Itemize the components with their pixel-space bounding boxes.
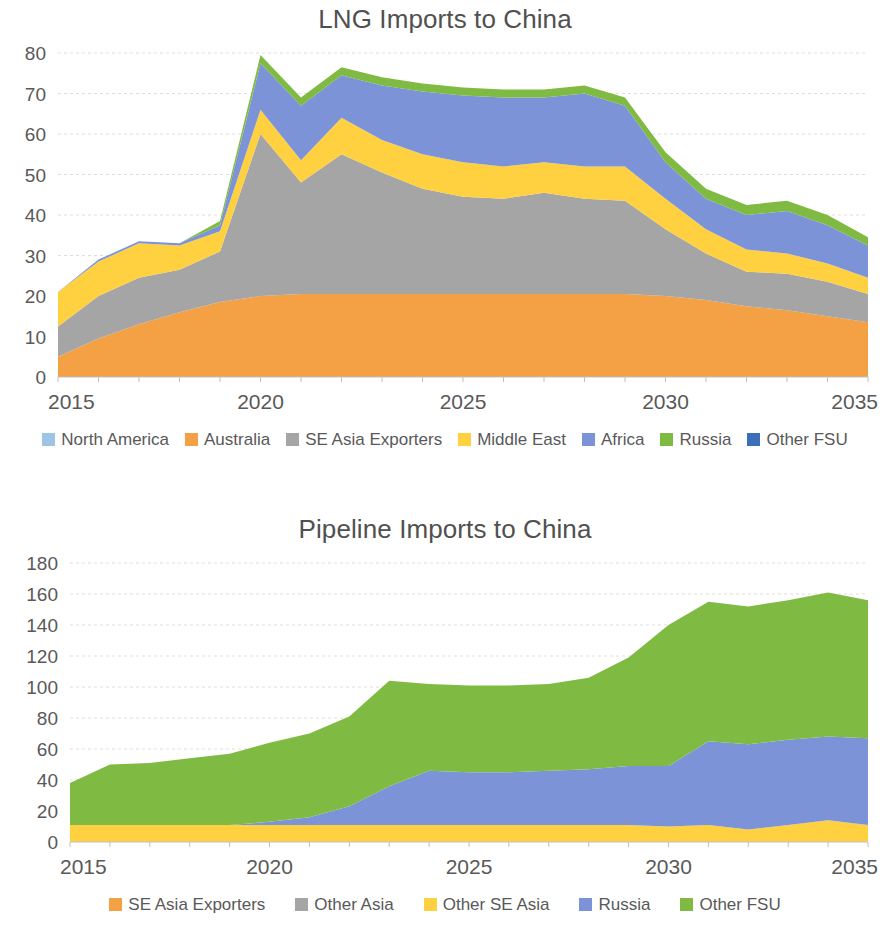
legend-swatch-icon xyxy=(458,433,471,446)
y-axis-tick-label: 180 xyxy=(26,553,58,574)
lng-plot-area: 0102030405060708020152020202520302035 xyxy=(0,35,890,425)
lng-imports-chart: LNG Imports to China 0102030405060708020… xyxy=(0,0,890,500)
legend-label: Australia xyxy=(204,431,270,448)
x-axis-tick-label: 2020 xyxy=(246,855,293,878)
legend-swatch-icon xyxy=(185,433,198,446)
y-axis-tick-label: 70 xyxy=(25,84,46,105)
legend-item[interactable]: SE Asia Exporters xyxy=(286,431,442,448)
legend-swatch-icon xyxy=(660,433,673,446)
y-axis-tick-label: 120 xyxy=(26,646,58,667)
y-axis-tick-label: 20 xyxy=(37,801,58,822)
legend-swatch-icon xyxy=(295,898,308,911)
legend-item[interactable]: North America xyxy=(42,431,169,448)
legend-item[interactable]: Other SE Asia xyxy=(424,896,550,913)
pipeline-plot-svg: 0204060801001201401601802015202020252030… xyxy=(0,545,890,890)
y-axis-tick-label: 40 xyxy=(37,770,58,791)
lng-plot-svg: 0102030405060708020152020202520302035 xyxy=(0,35,890,425)
legend-label: Middle East xyxy=(477,431,566,448)
legend-label: Other FSU xyxy=(766,431,847,448)
legend-item[interactable]: Middle East xyxy=(458,431,566,448)
x-axis-tick-label: 2015 xyxy=(48,390,95,413)
legend-label: North America xyxy=(61,431,169,448)
y-axis-tick-label: 0 xyxy=(35,367,46,388)
legend-label: SE Asia Exporters xyxy=(128,896,265,913)
legend-label: Russia xyxy=(598,896,650,913)
y-axis-tick-label: 80 xyxy=(37,708,58,729)
y-axis-tick-label: 40 xyxy=(25,205,46,226)
x-axis-tick-label: 2035 xyxy=(831,855,878,878)
legend-label: SE Asia Exporters xyxy=(305,431,442,448)
legend-swatch-icon xyxy=(286,433,299,446)
legend-label: Other Asia xyxy=(314,896,393,913)
legend-swatch-icon xyxy=(680,898,693,911)
x-axis-tick-label: 2025 xyxy=(446,855,493,878)
legend-item[interactable]: Other FSU xyxy=(680,896,780,913)
x-axis-tick-label: 2030 xyxy=(642,390,689,413)
legend-swatch-icon xyxy=(109,898,122,911)
x-axis-tick-label: 2025 xyxy=(440,390,487,413)
y-axis-tick-label: 60 xyxy=(37,739,58,760)
legend-swatch-icon xyxy=(582,433,595,446)
pipeline-legend: SE Asia ExportersOther AsiaOther SE Asia… xyxy=(0,896,890,913)
y-axis-tick-label: 60 xyxy=(25,124,46,145)
legend-swatch-icon xyxy=(424,898,437,911)
x-axis-tick-label: 2020 xyxy=(237,390,284,413)
legend-item[interactable]: Russia xyxy=(579,896,650,913)
y-axis-tick-label: 10 xyxy=(25,327,46,348)
legend-item[interactable]: Africa xyxy=(582,431,644,448)
pipeline-plot-area: 0204060801001201401601802015202020252030… xyxy=(0,545,890,890)
legend-item[interactable]: Other FSU xyxy=(747,431,847,448)
legend-swatch-icon xyxy=(747,433,760,446)
pipeline-chart-title: Pipeline Imports to China xyxy=(0,500,890,545)
legend-item[interactable]: SE Asia Exporters xyxy=(109,896,265,913)
x-axis-tick-label: 2015 xyxy=(60,855,107,878)
x-axis-tick-label: 2030 xyxy=(645,855,692,878)
lng-legend: North AmericaAustraliaSE Asia ExportersM… xyxy=(0,431,890,448)
legend-label: Russia xyxy=(679,431,731,448)
legend-item[interactable]: Russia xyxy=(660,431,731,448)
legend-item[interactable]: Other Asia xyxy=(295,896,393,913)
lng-chart-title: LNG Imports to China xyxy=(0,0,890,35)
y-axis-tick-label: 20 xyxy=(25,286,46,307)
legend-label: Other SE Asia xyxy=(443,896,550,913)
y-axis-tick-label: 50 xyxy=(25,165,46,186)
pipeline-imports-chart: Pipeline Imports to China 02040608010012… xyxy=(0,500,890,945)
y-axis-tick-label: 100 xyxy=(26,677,58,698)
legend-swatch-icon xyxy=(42,433,55,446)
legend-label: Other FSU xyxy=(699,896,780,913)
y-axis-tick-label: 30 xyxy=(25,246,46,267)
y-axis-tick-label: 0 xyxy=(47,832,58,853)
x-axis-tick-label: 2035 xyxy=(831,390,878,413)
y-axis-tick-label: 140 xyxy=(26,615,58,636)
legend-label: Africa xyxy=(601,431,644,448)
legend-swatch-icon xyxy=(579,898,592,911)
legend-item[interactable]: Australia xyxy=(185,431,270,448)
y-axis-tick-label: 160 xyxy=(26,584,58,605)
y-axis-tick-label: 80 xyxy=(25,43,46,64)
